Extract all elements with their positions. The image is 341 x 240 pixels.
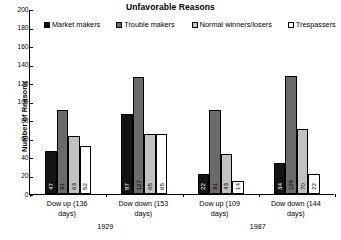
- y-axis-tick-label: 140: [17, 62, 30, 69]
- x-axis-separator: [183, 194, 184, 197]
- x-axis-group-label: 1929: [29, 222, 182, 231]
- x-axis-category-label-line: days): [105, 209, 181, 219]
- bar: 63: [68, 136, 80, 194]
- bar-value-label: 91: [59, 183, 65, 190]
- bar-value-label: 65: [159, 183, 165, 190]
- bar: 43: [221, 154, 233, 194]
- x-axis-separator: [335, 194, 336, 197]
- x-axis-category-label-line: Dow down (153: [105, 199, 181, 209]
- bar-value-label: 22: [200, 183, 206, 190]
- bar-value-label: 34: [277, 183, 283, 190]
- bar-value-label: 128: [288, 180, 294, 190]
- bar-value-label: 22: [311, 183, 317, 190]
- x-axis-category-label: Dow down (153days): [105, 199, 181, 219]
- plot-area: 0204060801001201401601802004791635287127…: [29, 10, 334, 195]
- x-axis-category-label-line: days): [29, 209, 105, 219]
- y-axis-tick-label: 120: [17, 80, 30, 87]
- x-axis-category-label-line: Dow down (144: [258, 199, 334, 209]
- bar-value-label: 127: [136, 180, 142, 190]
- bar-value-label: 70: [300, 183, 306, 190]
- bar-value-label: 52: [82, 183, 88, 190]
- bar: 52: [80, 146, 92, 194]
- x-axis-separator: [30, 194, 31, 197]
- x-axis-category-label-line: days): [258, 209, 334, 219]
- bar: 91: [209, 110, 221, 194]
- chart-container: Unfavorable Reasons Market makers Troubl…: [0, 0, 341, 240]
- y-axis-tick-label: 60: [21, 136, 30, 143]
- y-axis-tick-label: 100: [17, 99, 30, 106]
- bar-value-label: 65: [147, 183, 153, 190]
- y-axis-tick-label: 180: [17, 25, 30, 32]
- y-axis-tick-label: 200: [17, 6, 30, 13]
- x-axis-category-label-line: days): [182, 209, 258, 219]
- x-axis-category-label-line: Dow up (136: [29, 199, 105, 209]
- x-axis-category-label: Dow down (144days): [258, 199, 334, 219]
- bar-value-label: 43: [223, 183, 229, 190]
- bar: 65: [144, 134, 156, 194]
- bar-group: 22914314: [183, 10, 259, 194]
- bar: 22: [198, 174, 210, 194]
- bar-value-label: 91: [212, 183, 218, 190]
- y-axis-tick-label: 80: [21, 117, 30, 124]
- bar-value-label: 47: [48, 183, 54, 190]
- y-axis-tick-label: 160: [17, 43, 30, 50]
- x-axis-separator: [106, 194, 107, 197]
- bar: 70: [297, 129, 309, 194]
- bar: 91: [57, 110, 69, 194]
- bar-group: 47916352: [30, 10, 106, 194]
- bar-group: 871276565: [106, 10, 182, 194]
- bar-group: 341287022: [259, 10, 335, 194]
- x-axis-category-label: Dow up (109days): [182, 199, 258, 219]
- x-axis-category-label: Dow up (136days): [29, 199, 105, 219]
- bar: 14: [232, 181, 244, 194]
- y-axis-tick-label: 40: [21, 154, 30, 161]
- bar: 128: [285, 76, 297, 194]
- bar: 87: [121, 114, 133, 194]
- bar-value-label: 14: [235, 183, 241, 190]
- x-axis-separator: [259, 194, 260, 197]
- bar-value-label: 87: [124, 183, 130, 190]
- bar: 22: [308, 174, 320, 194]
- x-axis-group-label: 1987: [182, 222, 335, 231]
- bar: 34: [274, 163, 286, 194]
- bar: 127: [133, 77, 145, 194]
- bar: 47: [45, 151, 57, 194]
- bar: 65: [156, 134, 168, 194]
- x-axis-category-label-line: Dow up (109: [182, 199, 258, 209]
- bar-value-label: 63: [71, 183, 77, 190]
- y-axis-tick-label: 20: [21, 173, 30, 180]
